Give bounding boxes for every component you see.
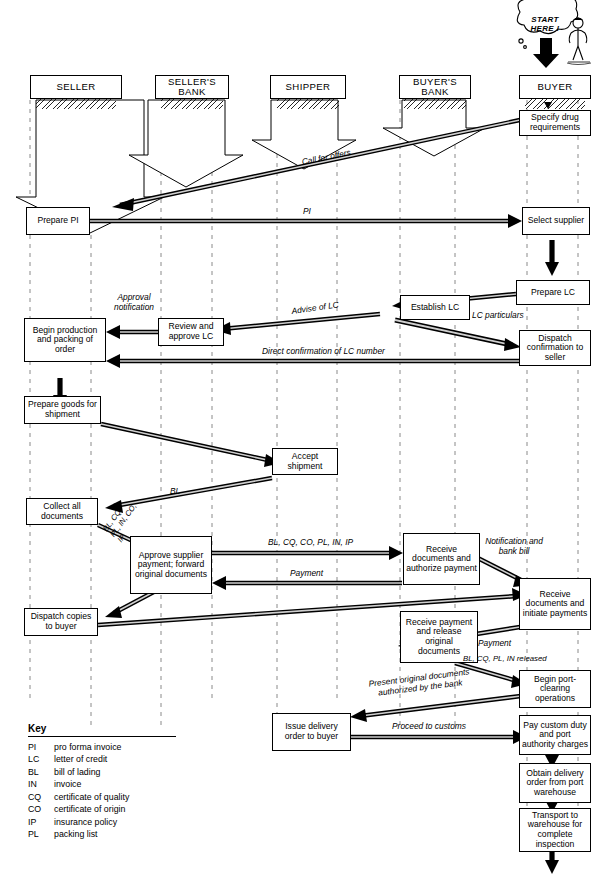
key-abbreviation: CO — [28, 803, 54, 815]
node-issue-delivery-order[interactable]: Issue delivery order to buyer — [272, 713, 351, 751]
edge-label-approval-notification: Approval notification — [105, 293, 163, 312]
node-begin-port-clearing[interactable]: Begin port-clearing operations — [519, 670, 591, 708]
key-abbreviation: CQ — [28, 791, 54, 803]
node-dispatch-confirmation-to-seller[interactable]: Dispatch confirmation to seller — [519, 330, 591, 366]
lane-header-sellers-bank: SELLER'S BANK — [155, 75, 229, 99]
key-row: IPinsurance policy — [28, 816, 228, 828]
lane-header-shadow-sellers-bank — [161, 99, 223, 109]
edge-label-direct-confirmation: Direct confirmation of LC number — [262, 347, 385, 357]
key-definition: letter of credit — [54, 753, 228, 765]
node-pay-custom-duty[interactable]: Pay custom duty and port authority charg… — [519, 715, 591, 755]
key-legend: Key PIpro forma invoiceLCletter of credi… — [28, 723, 228, 841]
key-abbreviation: IN — [28, 778, 54, 790]
node-collect-all-documents[interactable]: Collect all documents — [26, 498, 98, 525]
key-definition: certificate of origin — [54, 803, 228, 815]
edge-label-notification-bank-bill: Notification and bank bill — [480, 537, 548, 556]
key-definition: invoice — [54, 778, 228, 790]
node-specify-drug-requirements[interactable]: Specify drug requirements — [519, 110, 591, 136]
node-accept-shipment[interactable]: Accept shipment — [272, 448, 338, 475]
key-definition: bill of lading — [54, 766, 228, 778]
key-abbreviation: PL — [28, 828, 54, 840]
lane-header-seller: SELLER — [30, 75, 122, 99]
node-prepare-lc[interactable]: Prepare LC — [516, 280, 590, 305]
node-dispatch-copies-to-buyer[interactable]: Dispatch copies to buyer — [24, 608, 98, 636]
key-abbreviation: LC — [28, 753, 54, 765]
cut-off-title — [8, 0, 308, 5]
node-review-approve-lc[interactable]: Review and approve LC — [158, 318, 224, 346]
node-approve-supplier-payment[interactable]: Approve supplier payment; forward origin… — [130, 536, 212, 594]
edge-label-docs-top: BL, CQ, CO, PL, IN, IP — [268, 538, 353, 548]
edge-label-lc-particulars: LC particulars — [472, 311, 524, 321]
key-abbreviation: PI — [28, 741, 54, 753]
key-title: Key — [28, 723, 228, 736]
flowchart-canvas: SELLER SELLER'S BANK SHIPPER BUYER'S BAN… — [0, 0, 611, 879]
edge-label-proceed-to-customs: Proceed to customs — [392, 722, 466, 732]
node-prepare-pi[interactable]: Prepare PI — [26, 207, 90, 235]
key-row: CQcertificate of quality — [28, 791, 228, 803]
node-prepare-goods-for-shipment[interactable]: Prepare goods for shipment — [24, 396, 101, 424]
node-receive-documents-initiate-payments[interactable]: Receive documents and initiate payments — [519, 578, 591, 630]
node-transport-to-warehouse[interactable]: Transport to warehouse for complete insp… — [519, 808, 591, 852]
lane-header-shipper: SHIPPER — [270, 75, 346, 99]
key-row: COcertificate of origin — [28, 803, 228, 815]
node-obtain-delivery-order[interactable]: Obtain delivery order from port warehous… — [519, 763, 591, 803]
lane-header-shadow-buyers-bank — [404, 99, 466, 109]
lane-header-shadow-shipper — [277, 99, 339, 109]
key-row: BLbill of lading — [28, 766, 228, 778]
key-definition: pro forma invoice — [54, 741, 228, 753]
edge-label-payment-2: Payment — [478, 639, 511, 649]
key-definition: certificate of quality — [54, 791, 228, 803]
key-abbreviation: IP — [28, 816, 54, 828]
node-establish-lc[interactable]: Establish LC — [400, 295, 470, 320]
start-here-label: START HERE ! — [522, 16, 568, 34]
lane-header-shadow-seller — [36, 99, 116, 109]
edge-label-documents-released: BL, CQ, PL, IN released — [463, 655, 547, 664]
edge-label-payment-1: Payment — [290, 569, 323, 579]
node-select-supplier[interactable]: Select supplier — [522, 207, 590, 235]
key-row: PIpro forma invoice — [28, 741, 228, 753]
lane-header-shadow-buyer — [525, 99, 585, 109]
edge-label-bl: BL — [170, 487, 180, 497]
key-row: PLpacking list — [28, 828, 228, 840]
node-receive-documents-authorize-payment[interactable]: Receive documents and authorize payment — [403, 533, 480, 585]
key-row: LCletter of credit — [28, 753, 228, 765]
node-begin-production[interactable]: Begin production and packing of order — [24, 318, 106, 362]
key-definition: packing list — [54, 828, 228, 840]
key-rows: PIpro forma invoiceLCletter of creditBLb… — [28, 741, 228, 841]
lane-header-buyer: BUYER — [519, 75, 591, 99]
key-rule — [28, 736, 176, 737]
key-definition: insurance policy — [54, 816, 228, 828]
start-here-badge: START HERE ! — [505, 2, 605, 64]
key-row: INinvoice — [28, 778, 228, 790]
lane-header-buyers-bank: BUYER'S BANK — [399, 75, 471, 99]
key-abbreviation: BL — [28, 766, 54, 778]
edge-label-pi: PI — [303, 207, 311, 217]
